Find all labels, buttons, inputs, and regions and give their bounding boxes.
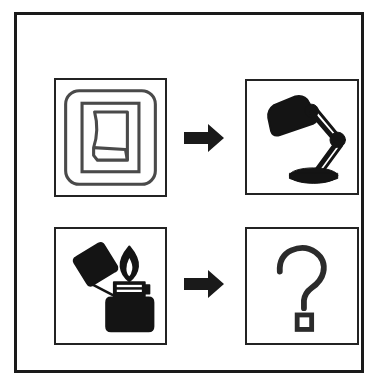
desk-lamp-icon (247, 81, 357, 193)
arrow-right-bottom: leads to (183, 267, 225, 301)
lighter-flame-icon (56, 229, 165, 343)
right-arrow-icon (183, 267, 225, 301)
figure-root: Switch turns on lamp; lighter outcome un… (0, 0, 380, 389)
question-mark-icon (247, 229, 357, 343)
panel-lighter[interactable]: Open flame lighter (54, 227, 167, 345)
outer-frame: Switch turns on lamp; lighter outcome un… (14, 12, 364, 373)
right-arrow-icon (183, 121, 225, 155)
panel-light-switch[interactable]: Rocker light switch (54, 78, 167, 197)
panel-unknown-outcome[interactable]: Question mark (245, 227, 359, 345)
panel-desk-lamp[interactable]: Architect desk lamp (245, 79, 359, 195)
light-switch-icon (56, 80, 165, 195)
arrow-right-top: leads to (183, 121, 225, 155)
figure-title: Switch turns on lamp; lighter outcome un… (17, 15, 18, 16)
